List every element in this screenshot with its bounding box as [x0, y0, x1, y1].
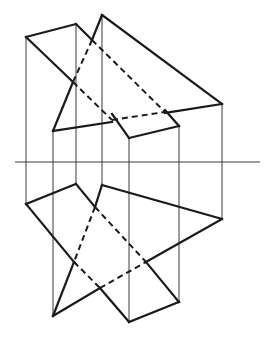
visible-edge [102, 185, 222, 219]
visible-edge [165, 104, 222, 113]
visible-edge [53, 288, 100, 316]
visible-edge [92, 15, 102, 40]
visible-edge [53, 82, 73, 131]
visible-edge [100, 288, 129, 322]
projection-drawing [0, 0, 271, 337]
visible-edge [146, 262, 179, 302]
visible-edge [26, 37, 73, 82]
visible-edge [53, 262, 74, 316]
visible-edge [146, 219, 222, 262]
visible-edge [26, 204, 74, 262]
hidden-edge [74, 262, 100, 288]
visible-edge [76, 184, 95, 207]
projection-lines [26, 15, 222, 322]
visible-edge [26, 24, 76, 37]
upper-view-visible-edges [26, 15, 222, 138]
visible-edge [53, 122, 112, 131]
hidden-edge [92, 40, 165, 112]
hidden-edge [73, 82, 112, 120]
hidden-edge [112, 112, 165, 120]
visible-edge [102, 15, 222, 104]
lower-view-hidden-edges [74, 207, 146, 288]
lower-view-visible-edges [26, 184, 222, 322]
hidden-edge [95, 207, 146, 262]
visible-edge [76, 24, 92, 40]
visible-edge [95, 185, 102, 207]
visible-edge [26, 184, 76, 204]
visible-edge [129, 126, 179, 138]
hidden-edge [74, 207, 95, 262]
hidden-edge [100, 262, 146, 288]
visible-edge [129, 302, 179, 322]
